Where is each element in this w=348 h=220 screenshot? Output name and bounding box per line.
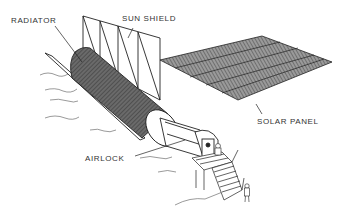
sun-shield-label: SUN SHIELD xyxy=(122,14,176,23)
airlock-label: AIRLOCK xyxy=(85,154,124,163)
solar-panel-label: SOLAR PANEL xyxy=(257,117,319,126)
airlock-module xyxy=(160,118,218,160)
habitat-diagram xyxy=(0,0,348,220)
radiator-label: RADIATOR xyxy=(11,16,56,25)
stairs xyxy=(192,150,244,200)
solar-panel xyxy=(160,36,332,100)
